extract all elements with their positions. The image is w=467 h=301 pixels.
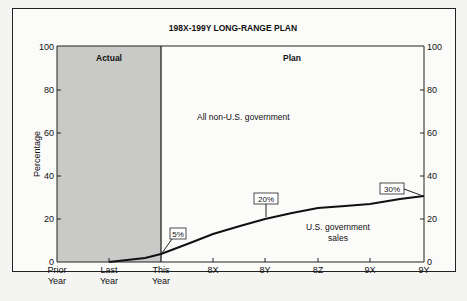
annotation-30: 30% [380, 183, 423, 196]
chart-title: 198X-199Y LONG-RANGE PLAN [169, 23, 297, 33]
svg-text:Prior: Prior [47, 265, 66, 275]
y-axis-right: 0 20 40 60 80 100 [420, 42, 442, 267]
svg-text:This: This [152, 265, 170, 275]
svg-text:40: 40 [427, 171, 437, 181]
non-us-label: All non-U.S. government [197, 112, 290, 122]
actual-label: Actual [96, 53, 122, 63]
svg-text:8Y: 8Y [259, 265, 270, 275]
svg-text:5%: 5% [172, 230, 184, 239]
svg-text:20: 20 [427, 214, 437, 224]
svg-text:9Y: 9Y [418, 265, 429, 275]
plan-label: Plan [283, 53, 301, 63]
us-label-line1: U.S. government [306, 222, 370, 232]
svg-text:8Z: 8Z [313, 265, 324, 275]
actual-region [57, 46, 161, 262]
svg-text:60: 60 [427, 128, 437, 138]
svg-text:60: 60 [44, 128, 54, 138]
svg-text:20%: 20% [258, 195, 274, 204]
y-axis-label: Percentage [32, 131, 42, 177]
us-label-line2: sales [328, 233, 348, 243]
svg-text:100: 100 [427, 42, 442, 52]
svg-text:30%: 30% [384, 185, 400, 194]
svg-text:80: 80 [44, 85, 54, 95]
svg-text:100: 100 [39, 42, 54, 52]
svg-text:80: 80 [427, 85, 437, 95]
annotation-20: 20% [254, 193, 278, 217]
svg-text:9X: 9X [364, 265, 375, 275]
svg-text:Year: Year [152, 276, 170, 286]
svg-text:20: 20 [44, 214, 54, 224]
svg-text:Year: Year [48, 276, 66, 286]
svg-text:40: 40 [44, 171, 54, 181]
chart-svg: 0 20 40 60 80 100 Percentage 0 20 40 60 … [0, 0, 467, 301]
svg-text:8X: 8X [207, 265, 218, 275]
svg-text:Last: Last [100, 265, 118, 275]
svg-text:Year: Year [100, 276, 118, 286]
